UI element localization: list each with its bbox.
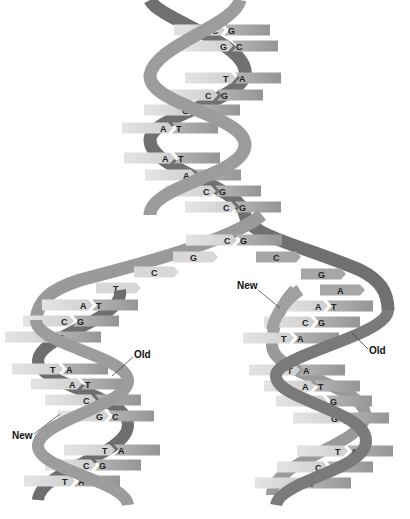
base-letter: C: [151, 268, 158, 278]
base-letter: C: [223, 203, 230, 213]
base-letter: T: [96, 301, 102, 311]
dna-replication-diagram: CGGCTACGGCATATATCGCG CGGCCGTA ATCGTATAAT…: [0, 0, 410, 519]
base-pair: TA: [12, 364, 108, 375]
base-letter: G: [219, 187, 226, 197]
base-letter: T: [331, 302, 337, 312]
base-letter: A: [66, 365, 73, 375]
base-letter: C: [205, 91, 212, 101]
label-old-left: Old: [134, 349, 151, 360]
label-old-right: Old: [369, 345, 386, 356]
unpaired-base: G: [301, 269, 346, 280]
base-letter: A: [302, 382, 309, 392]
left-daughter-helix: ATCGTATAATCGGCTACGTA: [5, 290, 160, 505]
base-letter: T: [178, 154, 184, 164]
base-letter: T: [102, 446, 108, 456]
base-letter: C: [302, 318, 309, 328]
base-letter: G: [228, 26, 235, 36]
base-letter: A: [315, 302, 322, 312]
unpaired-base: C: [134, 267, 179, 278]
base-letter: C: [83, 461, 90, 471]
base-letter: C: [273, 253, 280, 263]
base-letter: C: [61, 317, 68, 327]
base-letter: G: [99, 461, 106, 471]
base-letter: G: [190, 253, 197, 263]
base-letter: C: [203, 187, 210, 197]
base-letter: A: [297, 334, 304, 344]
base-letter: T: [50, 365, 56, 375]
base-letter: A: [303, 366, 310, 376]
base-letter: T: [223, 74, 229, 84]
unpaired-base: C: [256, 252, 301, 263]
unpaired-base: G: [173, 252, 218, 263]
base-letter: A: [337, 286, 344, 296]
base-letter: T: [281, 334, 287, 344]
base-letter: C: [236, 42, 243, 52]
base-letter: G: [220, 42, 227, 52]
base-letter: G: [240, 236, 247, 246]
base-pair: TA: [297, 446, 393, 457]
base-letter: A: [239, 74, 246, 84]
base-letter: A: [162, 154, 169, 164]
base-letter: G: [239, 203, 246, 213]
base-letter: A: [80, 301, 87, 311]
base-pair: AT: [42, 300, 138, 311]
base-letter: A: [160, 124, 167, 134]
base-letter: T: [62, 477, 68, 487]
base-letter: C: [224, 236, 231, 246]
base-letter: T: [335, 447, 341, 457]
base-letter: T: [176, 124, 182, 134]
base-letter: A: [118, 446, 125, 456]
base-letter: T: [318, 382, 324, 392]
base-letter: G: [77, 317, 84, 327]
label-new-left: New: [12, 430, 33, 441]
base-letter: G: [318, 270, 325, 280]
right-daughter-helix: ATCGTATAATCGGCTACGAT: [243, 290, 393, 505]
unpaired-base: A: [320, 285, 365, 296]
label-new-right: New: [237, 280, 258, 291]
base-letter: T: [85, 380, 91, 390]
base-letter: G: [318, 318, 325, 328]
base-letter: G: [221, 91, 228, 101]
base-letter: C: [112, 412, 119, 422]
base-letter: A: [69, 380, 76, 390]
